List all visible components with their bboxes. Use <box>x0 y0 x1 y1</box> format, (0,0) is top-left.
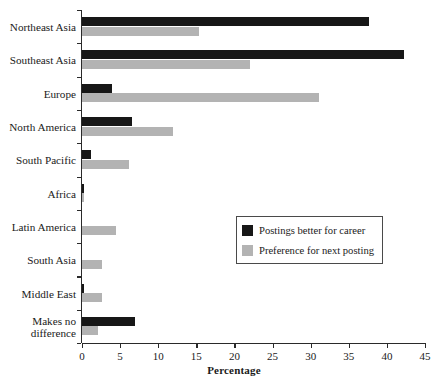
bar-preference <box>82 326 98 335</box>
x-tick-label: 30 <box>296 350 326 362</box>
y-tick <box>77 343 81 344</box>
bar-career <box>82 284 84 293</box>
bar-preference <box>82 226 116 235</box>
x-axis-line <box>82 343 426 344</box>
x-tick-label: 5 <box>105 350 135 362</box>
bar-career <box>82 317 135 326</box>
bar-career <box>82 84 112 93</box>
y-tick <box>77 243 81 244</box>
x-tick-label: 0 <box>67 350 97 362</box>
bar-preference <box>82 260 102 269</box>
y-axis-label: Middle East <box>22 288 76 301</box>
y-tick <box>77 10 81 11</box>
x-tick <box>196 344 197 348</box>
y-axis-label: Europe <box>44 88 76 101</box>
bar-career <box>82 184 84 193</box>
y-tick <box>77 43 81 44</box>
x-tick <box>387 344 388 348</box>
bar-preference <box>82 127 173 136</box>
y-tick <box>77 310 81 311</box>
x-tick-label: 25 <box>258 350 288 362</box>
x-tick <box>82 344 83 348</box>
y-axis-label: Southeast Asia <box>10 54 76 67</box>
legend-label-preference-for-next-posting: Preference for next posting <box>259 244 374 257</box>
legend-swatch-dark <box>242 225 253 236</box>
y-axis-label: Africa <box>47 188 76 201</box>
y-axis-label: South Asia <box>27 254 76 267</box>
y-axis-label: Latin America <box>12 221 76 234</box>
y-tick <box>77 210 81 211</box>
x-tick-label: 40 <box>372 350 402 362</box>
x-tick-label: 20 <box>219 350 249 362</box>
y-tick <box>77 110 81 111</box>
x-tick <box>120 344 121 348</box>
bar-career <box>82 50 404 59</box>
y-tick <box>77 143 81 144</box>
bar-preference <box>82 60 250 69</box>
x-tick-label: 10 <box>143 350 173 362</box>
x-tick-label: 35 <box>334 350 364 362</box>
legend-swatch-light <box>242 245 253 256</box>
y-tick <box>77 276 81 277</box>
bar-preference <box>82 193 84 202</box>
y-axis-label: Makes no difference <box>31 315 76 340</box>
chart-legend: Postings better for career Preference fo… <box>236 216 383 264</box>
legend-label-postings-better-for-career: Postings better for career <box>259 224 365 237</box>
x-tick <box>158 344 159 348</box>
x-tick-label: 15 <box>181 350 211 362</box>
y-axis-label: Northeast Asia <box>10 21 76 34</box>
y-axis-label: North America <box>9 121 76 134</box>
y-tick <box>77 77 81 78</box>
x-tick <box>425 344 426 348</box>
x-tick <box>273 344 274 348</box>
x-tick <box>311 344 312 348</box>
y-tick <box>77 177 81 178</box>
bar-preference <box>82 27 199 36</box>
x-tick <box>234 344 235 348</box>
bar-career <box>82 117 132 126</box>
bar-preference <box>82 93 319 102</box>
bar-career <box>82 17 369 26</box>
x-axis-title: Percentage <box>0 364 438 376</box>
x-tick <box>349 344 350 348</box>
bar-preference <box>82 293 102 302</box>
bar-career <box>82 150 91 159</box>
x-tick-label: 45 <box>410 350 438 362</box>
bar-chart: Northeast AsiaSoutheast AsiaEuropeNorth … <box>0 0 438 383</box>
y-axis-label: South Pacific <box>16 154 76 167</box>
bar-preference <box>82 160 129 169</box>
x-axis-title-text: Percentage <box>207 364 261 376</box>
